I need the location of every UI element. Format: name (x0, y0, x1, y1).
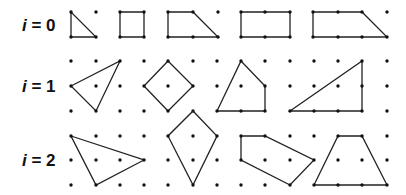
lattice-point (360, 134, 363, 137)
lattice-point (263, 183, 266, 186)
lattice-point (118, 158, 121, 161)
lattice-point (94, 35, 97, 38)
lattice-point (142, 134, 145, 137)
lattice-point (239, 35, 242, 38)
row-label: i = 1 (22, 77, 56, 96)
lattice-point (360, 59, 363, 62)
lattice-point (69, 84, 72, 87)
lattice-point (69, 59, 72, 62)
pentagon-polygon (241, 136, 314, 185)
lattice-point (118, 35, 121, 38)
lattice-point (288, 59, 291, 62)
lattice-point (239, 134, 242, 137)
lattice-point (118, 109, 121, 112)
lattice-point (166, 183, 169, 186)
lattice-point (360, 158, 363, 161)
row-label: i = 2 (22, 151, 56, 170)
lattice-point (142, 59, 145, 62)
label-value: = 1 (27, 77, 56, 96)
lattice-point (263, 35, 266, 38)
lattice-point (142, 183, 145, 186)
row-i-2: i = 2 (22, 111, 389, 187)
lattice-point (263, 158, 266, 161)
lattice-point (336, 158, 339, 161)
lattice-point (360, 35, 363, 38)
lattice-point (215, 134, 218, 137)
lattice-point (312, 158, 315, 161)
lattice-point (142, 109, 145, 112)
lattice-point (69, 158, 72, 161)
lattice-polygon-diagram: i = 0 i = 1 i = 2 (0, 0, 406, 195)
lattice-point (166, 10, 169, 13)
lattice-point (288, 35, 291, 38)
lattice-point (94, 59, 97, 62)
lattice-point (385, 35, 388, 38)
square-polygon (120, 12, 144, 37)
lattice-point (166, 84, 169, 87)
lattice-point (94, 183, 97, 186)
row-i-0: i = 0 (22, 10, 389, 38)
row-i-1: i = 1 (22, 59, 389, 112)
lattice-point (288, 183, 291, 186)
lattice-point (336, 10, 339, 13)
lattice-point (336, 59, 339, 62)
triangle-polygon (71, 12, 96, 37)
lattice-point (191, 10, 194, 13)
lattice-point (215, 158, 218, 161)
label-value: = 2 (27, 151, 56, 170)
lattice-point (360, 10, 363, 13)
lattice-point (385, 84, 388, 87)
diagram-canvas: i = 0 i = 1 i = 2 (0, 0, 406, 195)
lattice-point (118, 59, 121, 62)
lattice-point (385, 158, 388, 161)
kite-polygon (168, 111, 217, 185)
lattice-point (385, 10, 388, 13)
lattice-point (216, 35, 219, 38)
lattice-point (142, 10, 145, 13)
lattice-point (69, 35, 72, 38)
lattice-point (312, 59, 315, 62)
lattice-point (312, 134, 315, 137)
lattice-point (336, 84, 339, 87)
row-label: i = 0 (22, 16, 56, 35)
lattice-point (118, 10, 121, 13)
lattice-point (360, 84, 363, 87)
lattice-point (215, 59, 218, 62)
trapezoid-wide-polygon (313, 12, 387, 37)
lattice-point (166, 134, 169, 137)
lattice-point (166, 35, 169, 38)
lattice-point (239, 158, 242, 161)
lattice-point (191, 158, 194, 161)
lattice-point (385, 134, 388, 137)
lattice-point (239, 10, 242, 13)
lattice-point (118, 84, 121, 87)
lattice-point (142, 84, 145, 87)
lattice-point (166, 158, 169, 161)
right-triangle-polygon (290, 61, 362, 111)
lattice-point (336, 109, 339, 112)
triangle-polygon (71, 136, 144, 185)
lattice-point (288, 109, 291, 112)
lattice-point (215, 183, 218, 186)
lattice-point (191, 35, 194, 38)
trapezoid-polygon (314, 136, 387, 185)
lattice-point (312, 183, 315, 186)
lattice-point (69, 183, 72, 186)
lattice-point (69, 10, 72, 13)
label-value: = 0 (27, 16, 56, 35)
lattice-point (385, 183, 388, 186)
lattice-point (336, 35, 339, 38)
lattice-point (312, 84, 315, 87)
lattice-point (142, 158, 145, 161)
lattice-point (166, 59, 169, 62)
lattice-point (336, 183, 339, 186)
lattice-point (94, 109, 97, 112)
lattice-point (166, 109, 169, 112)
lattice-point (215, 109, 218, 112)
lattice-point (215, 84, 218, 87)
lattice-point (311, 10, 314, 13)
lattice-point (263, 10, 266, 13)
lattice-point (288, 84, 291, 87)
lattice-dots (69, 134, 388, 186)
lattice-point (118, 183, 121, 186)
